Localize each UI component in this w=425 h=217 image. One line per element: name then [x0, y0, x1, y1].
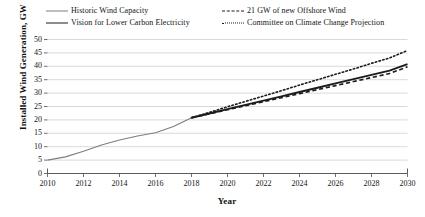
wind-generation-chart: Historic Wind Capacity 21 GW of new Offs… — [0, 0, 425, 217]
x-tick-label: 2026 — [321, 179, 351, 188]
x-tick-label: 2010 — [33, 179, 63, 188]
y-axis-ticks — [44, 40, 48, 174]
y-tick-label: 5 — [26, 155, 42, 164]
y-tick-label: 25 — [26, 102, 42, 111]
y-tick-label: 30 — [26, 88, 42, 97]
axis-lines — [48, 169, 408, 174]
plot-area: 05101520253035404550 2010201220142016201… — [0, 0, 425, 217]
x-tick-label: 2012 — [69, 179, 99, 188]
x-tick-label: 2020 — [213, 179, 243, 188]
x-tick-label: 2014 — [105, 179, 135, 188]
data-series-group — [48, 50, 408, 160]
gridlines — [48, 40, 408, 161]
x-tick-label: 2028 — [357, 179, 387, 188]
y-tick-label: 10 — [26, 142, 42, 151]
y-tick-label: 40 — [26, 61, 42, 70]
x-tick-label: 2018 — [177, 179, 207, 188]
series-line-1 — [192, 64, 408, 118]
x-tick-label: 2030 — [393, 179, 423, 188]
y-axis-title: Installed Wind Generation, GW — [18, 0, 28, 137]
y-tick-label: 0 — [26, 169, 42, 178]
y-tick-label: 20 — [26, 115, 42, 124]
x-tick-label: 2016 — [141, 179, 171, 188]
y-tick-label: 50 — [26, 35, 42, 44]
x-tick-label: 2022 — [249, 179, 279, 188]
x-tick-label: 2024 — [285, 179, 315, 188]
y-tick-label: 15 — [26, 128, 42, 137]
x-axis-ticks — [48, 174, 408, 178]
y-tick-label: 45 — [26, 48, 42, 57]
series-line-0 — [48, 118, 192, 160]
x-axis-title: Year — [47, 196, 407, 206]
series-line-3 — [192, 50, 408, 117]
y-tick-label: 35 — [26, 75, 42, 84]
